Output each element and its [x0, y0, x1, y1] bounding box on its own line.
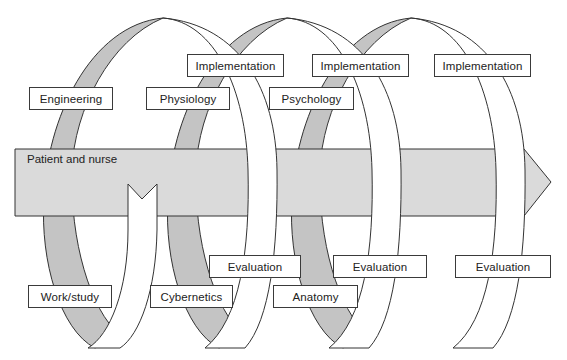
label-implementation-1: Implementation: [187, 54, 284, 77]
label-evaluation-2: Evaluation: [333, 255, 427, 278]
label-evaluation-3: Evaluation: [455, 255, 551, 278]
band-label: Patient and nurse: [27, 153, 117, 165]
label-evaluation-1: Evaluation: [209, 255, 301, 278]
label-anatomy: Anatomy: [273, 285, 358, 308]
label-implementation-3: Implementation: [434, 54, 531, 77]
label-engineering: Engineering: [29, 87, 113, 110]
label-physiology: Physiology: [146, 87, 230, 110]
label-implementation-2: Implementation: [312, 54, 409, 77]
label-psychology: Psychology: [269, 87, 354, 110]
label-work-study: Work/study: [28, 285, 112, 308]
label-cybernetics: Cybernetics: [150, 285, 233, 308]
